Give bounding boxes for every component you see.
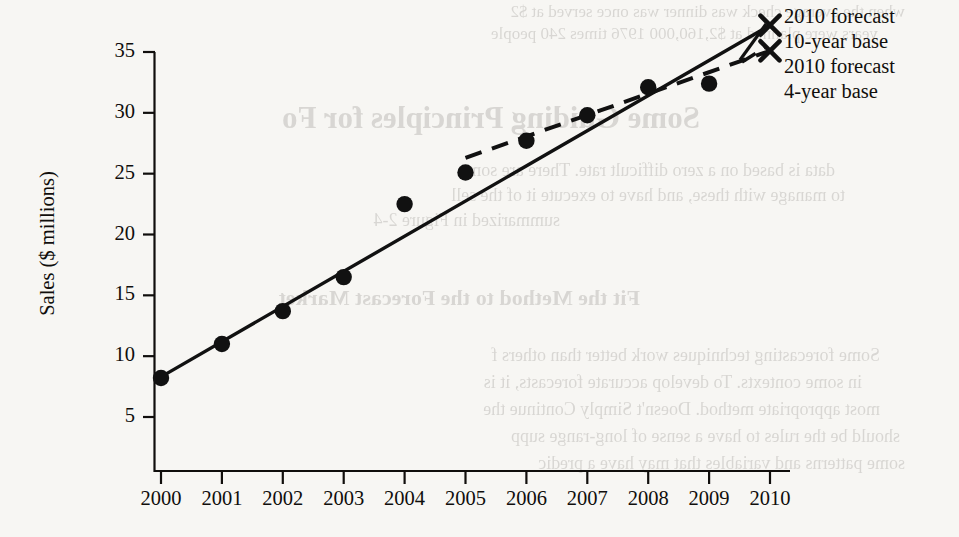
data-point <box>701 75 717 91</box>
legend-entry-label: 2010 forecast <box>784 4 895 29</box>
data-point <box>336 269 352 285</box>
y-tick-label: 25 <box>60 161 135 184</box>
trend-line-4-year-base <box>466 51 771 158</box>
y-axis-ticks <box>143 52 155 417</box>
data-point <box>396 196 412 212</box>
chart-legend: 2010 forecast10-year base2010 forecast4-… <box>784 4 895 104</box>
trend-line-10-year-base <box>161 25 770 377</box>
data-point <box>579 107 595 123</box>
legend-entry-label: 4-year base <box>784 79 895 104</box>
data-point <box>153 370 169 386</box>
y-tick-label: 10 <box>60 343 135 366</box>
forecast-x-marker <box>761 41 780 60</box>
y-tick-label: 15 <box>60 282 135 305</box>
x-axis-ticks <box>161 471 770 484</box>
legend-entry-label: 10-year base <box>784 29 895 54</box>
y-tick-label: 30 <box>60 100 135 123</box>
x-tick-label: 2010 <box>730 487 810 510</box>
axes <box>155 52 791 472</box>
sales-forecast-chart: Sales ($ millions) 3530252015105 2000200… <box>0 0 959 537</box>
data-point <box>640 79 656 95</box>
data-point <box>457 164 473 180</box>
y-tick-label: 20 <box>60 222 135 245</box>
sales-data-points <box>153 75 718 386</box>
legend-entry-label: 2010 forecast <box>784 54 895 79</box>
data-point <box>518 133 534 149</box>
data-point <box>214 336 230 352</box>
y-axis-title: Sales ($ millions) <box>36 134 59 354</box>
data-point <box>275 303 291 319</box>
y-tick-label: 35 <box>60 39 135 62</box>
y-tick-label: 5 <box>60 404 135 427</box>
